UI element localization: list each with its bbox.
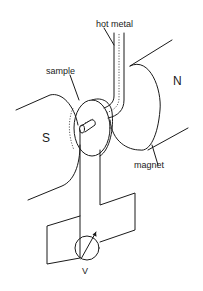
hot-metal-probe	[104, 33, 124, 118]
experiment-diagram: V hot metal sample N S magnet	[0, 0, 203, 291]
circuit-wires	[47, 130, 135, 264]
voltmeter: V	[75, 232, 99, 276]
magnet-north-pole	[110, 40, 188, 150]
voltmeter-label: V	[82, 266, 88, 276]
magnet-south-pole	[16, 95, 80, 200]
sample-label: sample	[46, 66, 75, 76]
south-label: S	[42, 131, 50, 145]
hot-metal-leader	[104, 28, 114, 45]
sample-leader	[70, 75, 79, 100]
hot-metal-label: hot metal	[96, 19, 133, 29]
north-label: N	[173, 74, 182, 88]
arrow-icon	[93, 232, 97, 237]
magnet-label: magnet	[134, 160, 165, 170]
